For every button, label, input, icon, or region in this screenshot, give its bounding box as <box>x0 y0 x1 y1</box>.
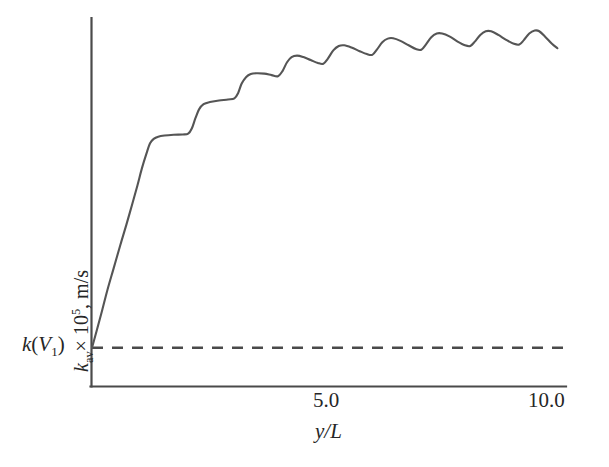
k-v1-annotation: k(V1) <box>22 334 65 358</box>
chart-svg <box>0 0 609 467</box>
x-axis-label-text: y/L <box>315 419 342 443</box>
x-tick-label-10: 10.0 <box>528 390 565 411</box>
y-axis-label-units: , m/s <box>70 270 92 309</box>
k-v1-variable: V <box>38 332 51 356</box>
k-v1-symbol: k <box>22 332 31 356</box>
k-v1-close-paren: ) <box>58 332 65 356</box>
x-axis-label: y/L <box>315 421 342 442</box>
x-tick-label-5: 5.0 <box>313 390 339 411</box>
chart-figure: kav× 105, m/s 5.0 10.0 y/L k(V1) <box>0 0 609 467</box>
y-axis-label-times: × 10 <box>70 315 92 351</box>
y-axis-label-symbol: k <box>70 363 92 372</box>
y-axis-label-exponent: 5 <box>69 309 83 315</box>
y-axis-label-subscript: av <box>82 351 96 363</box>
data-curve-kav <box>92 30 557 348</box>
